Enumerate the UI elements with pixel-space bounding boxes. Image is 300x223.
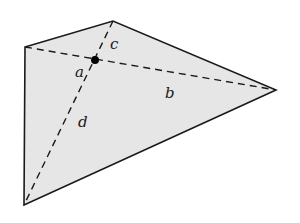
- label-a: a: [75, 63, 84, 81]
- quadrilateral-shape: [24, 21, 276, 205]
- intersection-point: [91, 56, 99, 64]
- label-b: b: [165, 84, 175, 102]
- label-d: d: [78, 113, 88, 131]
- quadrilateral-diagram: a b c d: [0, 0, 300, 223]
- label-c: c: [110, 35, 119, 53]
